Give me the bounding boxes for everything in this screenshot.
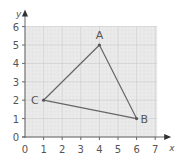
chart-svg: 012345670123456xyABC: [0, 0, 176, 161]
x-tick-label: 4: [96, 144, 102, 155]
x-tick-label: 1: [40, 144, 46, 155]
x-tick-label: 0: [22, 144, 28, 155]
x-tick-label: 2: [59, 144, 65, 155]
x-tick-label: 7: [152, 144, 158, 155]
x-tick-label: 3: [78, 144, 84, 155]
point-label-c: C: [31, 94, 39, 107]
x-tick-label: 5: [115, 144, 121, 155]
coordinate-grid-chart: 012345670123456xyABC: [0, 0, 176, 161]
y-tick-label: 3: [13, 77, 19, 88]
y-axis-label: y: [15, 9, 22, 19]
point-label-a: A: [96, 29, 104, 42]
y-tick-label: 1: [13, 114, 19, 125]
y-tick-label: 5: [13, 40, 19, 51]
x-axis-arrow-icon: [164, 134, 171, 140]
point-a: [98, 43, 101, 46]
point-c: [42, 99, 45, 102]
grid: [25, 27, 157, 137]
x-axis-label: x: [168, 143, 175, 153]
y-axis-arrow-icon: [22, 10, 28, 17]
point-b: [135, 117, 138, 120]
y-tick-label: 4: [13, 58, 19, 69]
y-tick-label: 2: [13, 95, 19, 106]
y-tick-label: 6: [13, 22, 19, 33]
y-tick-label: 0: [13, 132, 19, 143]
x-tick-label: 6: [133, 144, 139, 155]
point-label-b: B: [141, 113, 149, 126]
